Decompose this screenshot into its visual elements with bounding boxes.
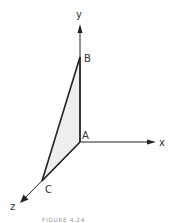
coordinate-diagram: y x z B A C FIGURE 4.24 [0, 0, 173, 223]
point-label-b: B [84, 53, 91, 64]
y-axis-label: y [76, 9, 82, 20]
z-axis-label: z [10, 201, 15, 212]
x-axis-arrowhead-icon [147, 140, 156, 145]
point-label-a: A [82, 130, 89, 141]
figure-caption: FIGURE 4.24 [42, 216, 85, 223]
y-axis-arrowhead-icon [78, 24, 83, 33]
x-axis-label: x [159, 137, 165, 148]
point-label-c: C [45, 184, 52, 195]
